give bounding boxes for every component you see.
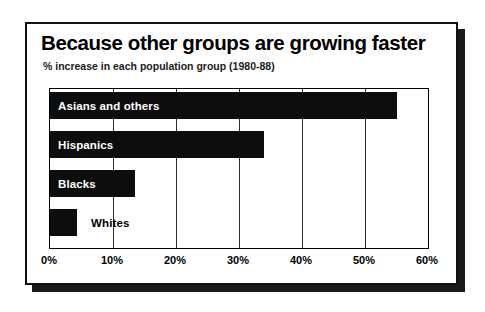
- bar-row: Blacks: [50, 170, 428, 197]
- x-tick-label: 40%: [290, 254, 312, 266]
- bar-row: Hispanics: [50, 131, 428, 158]
- x-tick-label: 0%: [41, 254, 57, 266]
- bar-label: Whites: [91, 217, 129, 229]
- bar-row: Whites: [50, 209, 428, 236]
- bar-label: Blacks: [58, 178, 96, 190]
- bar: [50, 209, 77, 236]
- x-axis-tick-labels: 0%10%20%30%40%50%60%: [49, 254, 427, 272]
- x-tick-label: 30%: [227, 254, 249, 266]
- x-tick-label: 10%: [101, 254, 123, 266]
- x-tick-label: 60%: [416, 254, 438, 266]
- bar-label: Hispanics: [58, 139, 113, 151]
- x-tick-label: 20%: [164, 254, 186, 266]
- plot-area: Asians and othersHispanicsBlacksWhites: [49, 88, 429, 249]
- chart-title: Because other groups are growing faster: [41, 32, 451, 54]
- chart-subtitle: % increase in each population group (198…: [43, 60, 275, 72]
- bar-row: Asians and others: [50, 92, 428, 119]
- bar-label: Asians and others: [58, 100, 159, 112]
- x-tick-label: 50%: [353, 254, 375, 266]
- chart-figure: Because other groups are growing faster …: [25, 22, 458, 285]
